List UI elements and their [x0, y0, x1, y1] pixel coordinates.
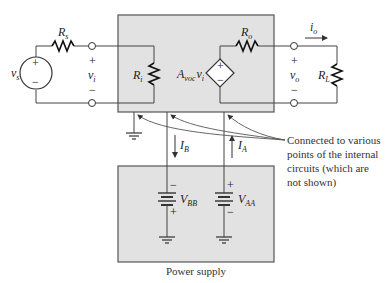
svg-text:−: −: [32, 75, 39, 89]
vi-label: vi: [88, 68, 96, 84]
vi-minus: −: [89, 83, 96, 97]
svg-text:+: +: [32, 56, 39, 70]
rs-label: Rs: [57, 25, 68, 41]
power-supply-box: [118, 166, 274, 262]
ia-label: IA: [237, 138, 247, 154]
vi-plus: +: [89, 54, 96, 68]
source-resistor-icon: [52, 41, 74, 51]
svg-text:−: −: [170, 178, 177, 192]
svg-text:+: +: [170, 205, 177, 219]
input-terminal-top: [89, 43, 96, 50]
svg-text:circuits (which are: circuits (which are: [287, 162, 369, 175]
amplifier-box: [118, 15, 274, 112]
amplifier-diagram: + − vs Rs + vi − Ri Avocvi + −: [0, 0, 391, 283]
svg-text:−: −: [217, 73, 224, 87]
ground-icon: [126, 133, 142, 139]
vo-label: vo: [290, 68, 299, 84]
svg-text:+: +: [227, 178, 234, 192]
load-resistor-icon: [332, 64, 342, 86]
svg-text:not shown): not shown): [287, 176, 337, 189]
annotation-text: Connected to various points of the inter…: [287, 134, 380, 189]
source-label: vs: [11, 66, 19, 82]
output-circuit: io + vo − RL: [290, 20, 342, 107]
vo-plus: +: [291, 54, 298, 68]
supply-connections: IB IA: [126, 112, 285, 166]
io-label: io: [310, 20, 317, 36]
rl-label: RL: [317, 68, 330, 84]
vo-minus: −: [291, 83, 298, 97]
output-terminal-bottom: [291, 100, 298, 107]
svg-text:Connected to various: Connected to various: [287, 134, 380, 146]
svg-text:+: +: [217, 59, 224, 73]
output-terminal-top: [291, 43, 298, 50]
ib-label: IB: [179, 138, 189, 154]
svg-text:−: −: [227, 205, 234, 219]
svg-text:points of the internal: points of the internal: [287, 148, 378, 160]
input-terminal-bottom: [89, 100, 96, 107]
annotation-arrow-1: [138, 115, 285, 140]
power-supply-title: Power supply: [166, 265, 227, 277]
